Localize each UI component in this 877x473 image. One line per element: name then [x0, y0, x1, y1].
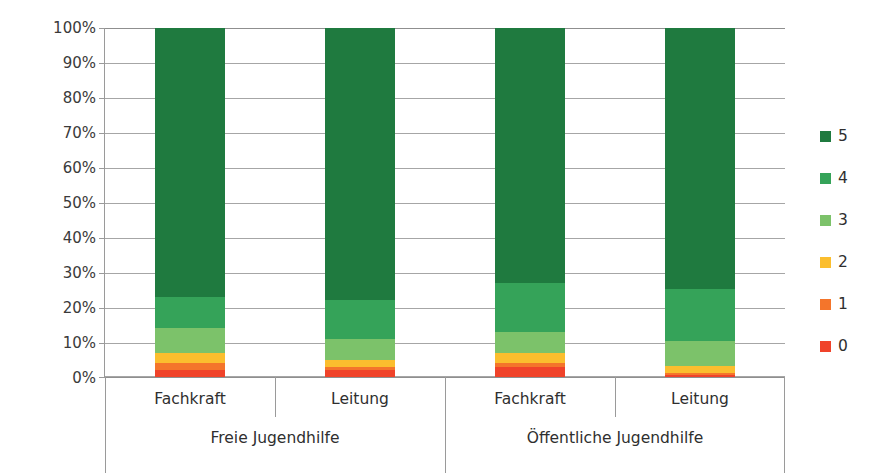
legend-swatch-icon [820, 341, 831, 352]
bar-segment-4 [155, 297, 225, 328]
legend-swatch-icon [820, 257, 831, 268]
y-tick-label-30: 30% [63, 266, 96, 281]
bar-2 [325, 28, 395, 377]
plot-area [105, 28, 785, 377]
bar-segment-5 [495, 28, 565, 283]
bar-segment-4 [325, 300, 395, 338]
bar-3 [495, 28, 565, 377]
category-label-leitung-frei: Leitung [275, 391, 445, 407]
y-tick-label-50: 50% [63, 196, 96, 211]
legend-swatch-icon [820, 215, 831, 226]
legend-label: 5 [838, 128, 848, 144]
y-tick-label-0: 0% [72, 371, 96, 386]
stacked-bar-chart: 100% 90% 80% 70% 60% 50% 40% 30% 20% 10%… [0, 0, 877, 473]
bar-segment-5 [665, 28, 735, 289]
bar-segment-3 [155, 328, 225, 352]
bar-segment-2 [665, 366, 735, 373]
bar-segment-4 [665, 289, 735, 341]
bar-segment-3 [325, 339, 395, 360]
bar-segment-1 [665, 373, 735, 375]
legend-item-2[interactable]: 2 [820, 254, 848, 270]
legend-swatch-icon [820, 173, 831, 184]
y-tick-label-100: 100% [53, 21, 96, 36]
y-tick-label-20: 20% [63, 301, 96, 316]
bar-segment-1 [325, 367, 395, 370]
bar-segment-2 [495, 353, 565, 363]
y-tick-label-70: 70% [63, 126, 96, 141]
bars-layer [105, 28, 785, 377]
bar-segment-3 [495, 332, 565, 353]
legend-label: 3 [838, 212, 848, 228]
legend-item-5[interactable]: 5 [820, 128, 848, 144]
legend-swatch-icon [820, 299, 831, 310]
bar-segment-3 [665, 341, 735, 365]
category-axis: Fachkraft Leitung Fachkraft Leitung Frei… [105, 377, 785, 473]
legend-item-1[interactable]: 1 [820, 296, 848, 312]
bar-segment-0 [155, 370, 225, 377]
bar-segment-5 [325, 28, 395, 300]
group-label-freie-jugendhilfe: Freie Jugendhilfe [105, 430, 445, 446]
legend-label: 1 [838, 296, 848, 312]
y-tick-label-40: 40% [63, 231, 96, 246]
category-label-fachkraft-oeff: Fachkraft [445, 391, 615, 407]
bar-segment-2 [155, 353, 225, 363]
y-tick-label-10: 10% [63, 336, 96, 351]
legend-label: 2 [838, 254, 848, 270]
bar-segment-1 [495, 363, 565, 366]
bar-segment-0 [495, 367, 565, 377]
category-label-leitung-oeff: Leitung [615, 391, 785, 407]
bar-1 [155, 28, 225, 377]
bar-4 [665, 28, 735, 377]
bar-segment-4 [495, 283, 565, 332]
y-axis: 100% 90% 80% 70% 60% 50% 40% 30% 20% 10%… [0, 0, 104, 400]
legend-item-4[interactable]: 4 [820, 170, 848, 186]
y-tick-label-80: 80% [63, 91, 96, 106]
bar-segment-0 [325, 370, 395, 377]
legend-label: 0 [838, 338, 848, 354]
bar-segment-5 [155, 28, 225, 297]
bar-segment-2 [325, 360, 395, 367]
y-tick-label-60: 60% [63, 161, 96, 176]
legend-label: 4 [838, 170, 848, 186]
legend-item-3[interactable]: 3 [820, 212, 848, 228]
category-label-fachkraft-frei: Fachkraft [105, 391, 275, 407]
bar-segment-1 [155, 363, 225, 370]
legend-swatch-icon [820, 131, 831, 142]
group-label-oeffentliche-jugendhilfe: Öffentliche Jugendhilfe [445, 430, 785, 446]
legend-item-0[interactable]: 0 [820, 338, 848, 354]
y-tick-label-90: 90% [63, 56, 96, 71]
chart-legend: 543210 [820, 128, 877, 344]
